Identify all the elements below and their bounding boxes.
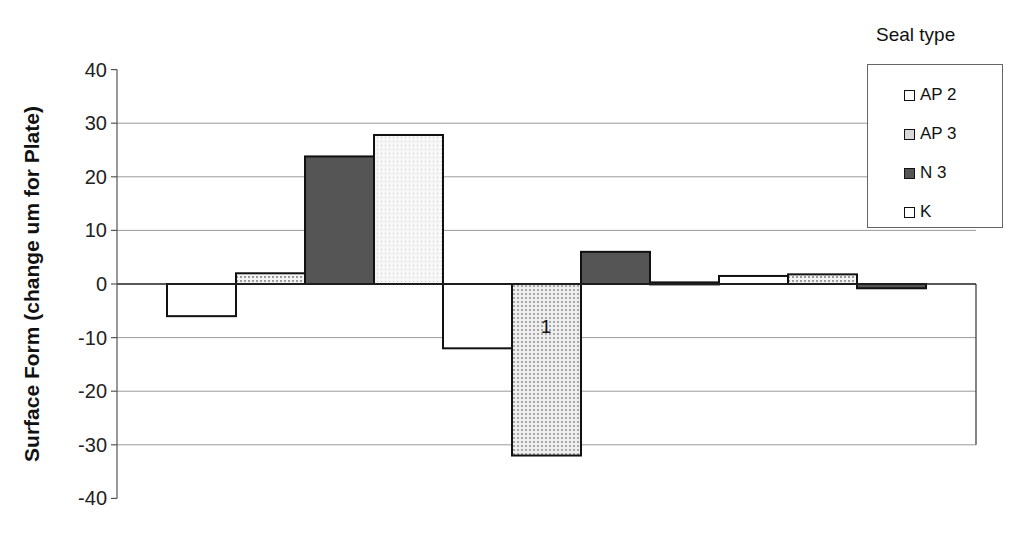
bar: [236, 273, 305, 284]
y-tick-label: 20: [85, 166, 107, 188]
bar-annotation: 1: [541, 316, 552, 337]
bars: [167, 135, 926, 456]
legend-swatch-icon: [904, 129, 915, 140]
legend-item-k: K: [904, 202, 931, 222]
legend-swatch-icon: [904, 168, 915, 179]
y-tick-label: -20: [78, 380, 107, 402]
legend-label: K: [920, 202, 931, 222]
legend-label: N 3: [920, 163, 946, 183]
y-axis-label: Surface Form (change um for Plate): [20, 106, 44, 462]
legend-item-ap3: AP 3: [904, 124, 957, 144]
bar: [788, 274, 857, 284]
y-tick-label: -30: [78, 434, 107, 456]
legend-title: Seal type: [876, 24, 955, 46]
legend-item-ap2: AP 2: [904, 85, 957, 105]
y-tick-label: -10: [78, 327, 107, 349]
y-tick-label: 30: [85, 112, 107, 134]
y-tick-label: 40: [85, 59, 107, 81]
legend-swatch-icon: [904, 207, 915, 218]
y-tick-label: 0: [96, 273, 107, 295]
legend: AP 2 AP 3 N 3 K: [867, 64, 1003, 228]
legend-label: AP 3: [920, 124, 957, 144]
y-tick-label: -40: [78, 487, 107, 509]
legend-label: AP 2: [920, 85, 957, 105]
bar: [167, 284, 236, 316]
bar: [305, 156, 374, 284]
y-tick-label: 10: [85, 219, 107, 241]
bar: [374, 135, 443, 284]
bar: [443, 284, 512, 348]
legend-item-n3: N 3: [904, 163, 946, 183]
legend-swatch-icon: [904, 90, 915, 101]
bar: [581, 252, 650, 284]
bar: [719, 276, 788, 284]
bar: [512, 284, 581, 456]
